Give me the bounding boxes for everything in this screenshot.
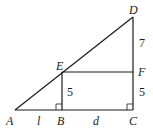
right-angle-marker-C xyxy=(127,104,133,110)
segment-label-BC: d xyxy=(93,114,100,128)
point-label-A: A xyxy=(5,114,14,128)
geometry-diagram: A B C D E F l d 5 5 7 xyxy=(0,0,153,132)
point-label-B: B xyxy=(57,114,65,128)
segment-label-BE: 5 xyxy=(67,85,73,99)
segment-AD xyxy=(15,17,133,110)
point-label-F: F xyxy=(137,65,146,79)
segment-label-FD: 7 xyxy=(139,36,145,50)
segment-label-AB: l xyxy=(37,114,41,128)
point-label-E: E xyxy=(55,59,64,73)
right-angle-marker-B xyxy=(56,104,62,110)
point-label-C: C xyxy=(129,114,138,128)
point-label-D: D xyxy=(128,3,138,17)
segment-label-CF: 5 xyxy=(139,85,145,99)
